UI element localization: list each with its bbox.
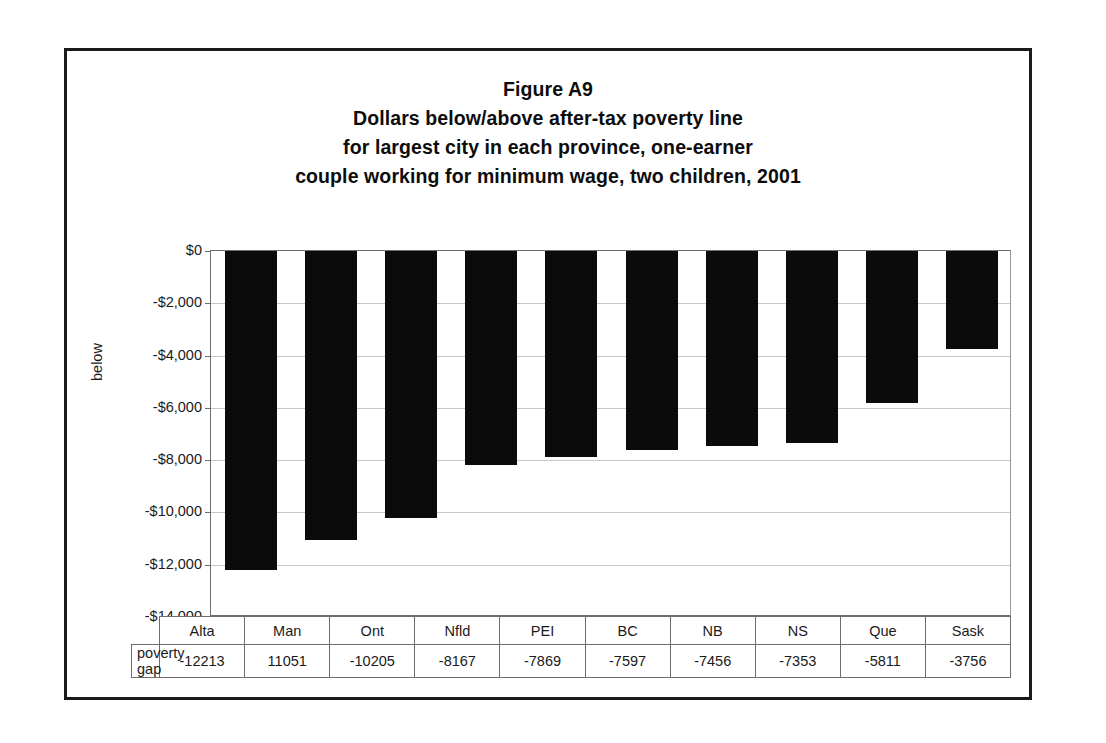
table-value-bc: -7597 — [585, 645, 670, 678]
table-header-ont: Ont — [330, 617, 415, 645]
table-header-ns: NS — [755, 617, 840, 645]
bar-ont — [385, 251, 437, 518]
y-axis-tick — [205, 303, 211, 304]
chart-title-block: Figure A9 Dollars below/above after-tax … — [67, 75, 1029, 191]
table-value-ont: -10205 — [330, 645, 415, 678]
y-axis-tick-label: $0 — [186, 242, 202, 258]
table-header-pei: PEI — [500, 617, 585, 645]
table-value-que: -5811 — [840, 645, 925, 678]
table-header-nb: NB — [670, 617, 755, 645]
bar-man — [305, 251, 357, 540]
gridline — [211, 565, 1010, 566]
bar-que — [866, 251, 918, 403]
title-line-2: Dollars below/above after-tax poverty li… — [67, 104, 1029, 133]
table-value-sask: -3756 — [925, 645, 1010, 678]
table-value-man: 11051 — [245, 645, 330, 678]
title-line-3: for largest city in each province, one-e… — [67, 133, 1029, 162]
y-axis-tick — [205, 565, 211, 566]
bar-bc — [626, 251, 678, 450]
bar-nfld — [465, 251, 517, 465]
table-header-man: Man — [245, 617, 330, 645]
table-value-ns: -7353 — [755, 645, 840, 678]
table-row-values: poverty gap -1221311051-10205-8167-7869-… — [132, 645, 1011, 678]
table-header-bc: BC — [585, 617, 670, 645]
y-axis-tick-label: -$2,000 — [153, 294, 202, 310]
y-axis-tick — [205, 512, 211, 513]
table-row-label: poverty gap — [132, 645, 160, 678]
figure-frame: Figure A9 Dollars below/above after-tax … — [64, 48, 1032, 700]
table-row-categories: AltaManOntNfldPEIBCNBNSQueSask — [132, 617, 1011, 645]
y-axis-tick-label: -$12,000 — [145, 556, 202, 572]
table-header-nfld: Nfld — [415, 617, 500, 645]
y-axis-tick — [205, 251, 211, 252]
title-line-4: couple working for minimum wage, two chi… — [67, 162, 1029, 191]
plot-area — [210, 250, 1011, 616]
bar-alta — [225, 251, 277, 570]
y-axis-tick — [205, 408, 211, 409]
bar-pei — [545, 251, 597, 457]
y-axis-tick-labels: $0-$2,000-$4,000-$6,000-$8,000-$10,000-$… — [67, 250, 202, 616]
table-value-pei: -7869 — [500, 645, 585, 678]
y-axis-tick-label: -$8,000 — [153, 451, 202, 467]
title-line-1: Figure A9 — [67, 75, 1029, 104]
y-axis-tick-label: -$4,000 — [153, 347, 202, 363]
table-header-sask: Sask — [925, 617, 1010, 645]
y-axis-tick-label: -$10,000 — [145, 503, 202, 519]
table-value-nb: -7456 — [670, 645, 755, 678]
bar-nb — [706, 251, 758, 446]
bar-ns — [786, 251, 838, 443]
table-corner-blank — [132, 617, 160, 645]
table-header-alta: Alta — [160, 617, 245, 645]
data-table: AltaManOntNfldPEIBCNBNSQueSask poverty g… — [131, 616, 1011, 678]
bar-sask — [946, 251, 998, 349]
y-axis-tick-label: -$6,000 — [153, 399, 202, 415]
y-axis-tick — [205, 356, 211, 357]
y-axis-tick — [205, 460, 211, 461]
table-value-nfld: -8167 — [415, 645, 500, 678]
table-header-que: Que — [840, 617, 925, 645]
